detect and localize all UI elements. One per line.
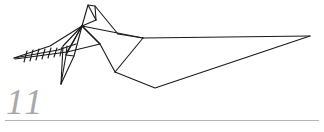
tail-bottom <box>115 36 310 88</box>
leg-strut <box>61 26 82 84</box>
figure-page: 11 <box>0 0 324 132</box>
leg-inner <box>61 26 82 84</box>
beak-spike-upper <box>14 26 82 58</box>
beak-barb-tick-4 <box>42 49 45 59</box>
footer-rule <box>5 120 319 121</box>
beak-barb-tick-7 <box>60 47 62 56</box>
leg-outer <box>61 26 82 84</box>
crest-to-body <box>118 34 143 38</box>
figure-line-group <box>14 5 310 88</box>
beak-barb-tick-6 <box>54 48 57 57</box>
wing-fold-inner <box>82 26 115 72</box>
beak-barb-tick-5 <box>48 48 51 58</box>
origami-crane-figure <box>0 0 324 132</box>
beak-barb-ticks <box>24 46 67 62</box>
page-number: 11 <box>6 84 45 120</box>
tail-top <box>143 36 310 38</box>
body-lower-left <box>115 38 143 72</box>
foot-fold <box>66 55 74 56</box>
apex-fold-a <box>82 20 96 26</box>
